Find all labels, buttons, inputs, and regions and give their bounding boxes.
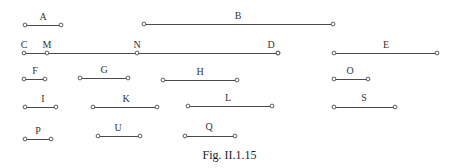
- endpoint-right-f: [43, 77, 47, 81]
- segment-label-e: E: [383, 40, 389, 50]
- endpoint-right-u: [138, 134, 142, 138]
- segment-o: [332, 77, 370, 81]
- segment-i: [23, 105, 58, 109]
- segment-label-i: I: [41, 94, 44, 104]
- endpoint-left-h: [161, 78, 165, 82]
- segment-b: [142, 22, 335, 26]
- segment-p: [23, 137, 53, 141]
- interior-point-d: [276, 51, 280, 55]
- point-label-n: N: [133, 40, 140, 50]
- segment-label-q: Q: [205, 122, 212, 132]
- endpoint-left-u: [96, 134, 100, 138]
- segment-l: [186, 104, 274, 108]
- segment-u: [96, 134, 142, 138]
- endpoint-left-f: [22, 77, 26, 81]
- endpoint-left-a: [23, 23, 27, 27]
- segment-label-s: S: [361, 93, 367, 103]
- endpoint-left-b: [142, 22, 146, 26]
- endpoint-right-l: [270, 104, 274, 108]
- endpoint-left-l: [186, 104, 190, 108]
- interior-point-n: [135, 51, 139, 55]
- endpoint-right-k: [155, 105, 159, 109]
- point-marker-d: [276, 51, 280, 55]
- endpoint-right-b: [331, 22, 335, 26]
- endpoint-right-h: [235, 78, 239, 82]
- endpoint-right-i: [54, 105, 58, 109]
- endpoint-right-e: [435, 51, 439, 55]
- endpoint-left-k: [91, 105, 95, 109]
- figure-container: ABCEFGHOIKLSPUQMND Fig. II.1.15: [0, 0, 459, 168]
- segment-label-l: L: [225, 93, 231, 103]
- segment-c: [22, 51, 280, 55]
- endpoint-right-o: [366, 77, 370, 81]
- point-label-d: D: [267, 40, 274, 50]
- endpoint-left-e: [332, 51, 336, 55]
- segment-label-p: P: [35, 126, 41, 136]
- endpoint-left-q: [183, 134, 187, 138]
- endpoint-right-s: [393, 105, 397, 109]
- segment-q: [183, 134, 237, 138]
- point-marker-n: [135, 51, 139, 55]
- point-label-m: M: [43, 40, 52, 50]
- segment-label-c: C: [21, 40, 28, 50]
- segment-label-b: B: [235, 11, 242, 21]
- segment-f: [22, 77, 47, 81]
- segment-label-a: A: [39, 12, 46, 22]
- endpoint-right-a: [59, 23, 63, 27]
- segment-label-k: K: [122, 94, 129, 104]
- segment-label-o: O: [346, 66, 353, 76]
- endpoint-left-o: [332, 77, 336, 81]
- segment-k: [91, 105, 159, 109]
- interior-point-m: [45, 51, 49, 55]
- segment-label-f: F: [32, 66, 38, 76]
- segment-a: [23, 23, 63, 27]
- segment-e: [332, 51, 439, 55]
- segment-h: [161, 78, 239, 82]
- segment-g: [78, 76, 130, 80]
- endpoint-left-i: [23, 105, 27, 109]
- endpoint-right-q: [233, 134, 237, 138]
- endpoint-right-g: [126, 76, 130, 80]
- endpoint-left-c: [22, 51, 26, 55]
- endpoint-left-p: [23, 137, 27, 141]
- segments-canvas: [0, 0, 459, 168]
- segment-s: [332, 105, 397, 109]
- endpoint-left-g: [78, 76, 82, 80]
- segment-label-h: H: [196, 67, 203, 77]
- endpoint-left-s: [332, 105, 336, 109]
- endpoint-right-p: [49, 137, 53, 141]
- segment-label-g: G: [100, 65, 107, 75]
- segment-label-u: U: [114, 123, 121, 133]
- point-marker-m: [45, 51, 49, 55]
- figure-caption: Fig. II.1.15: [0, 148, 459, 163]
